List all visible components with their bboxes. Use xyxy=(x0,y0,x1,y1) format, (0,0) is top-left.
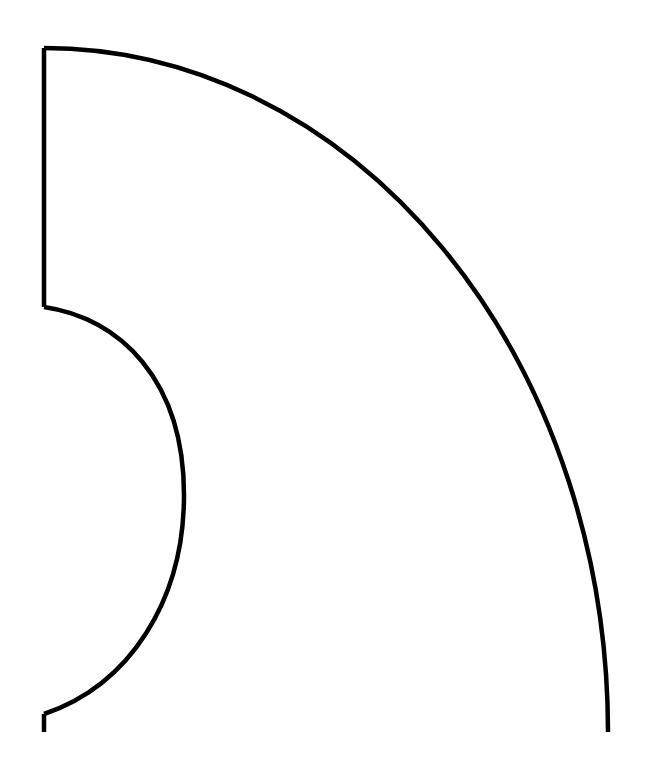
sector-shape-svg xyxy=(0,0,646,774)
diagram-canvas xyxy=(0,0,646,774)
background xyxy=(0,0,646,774)
